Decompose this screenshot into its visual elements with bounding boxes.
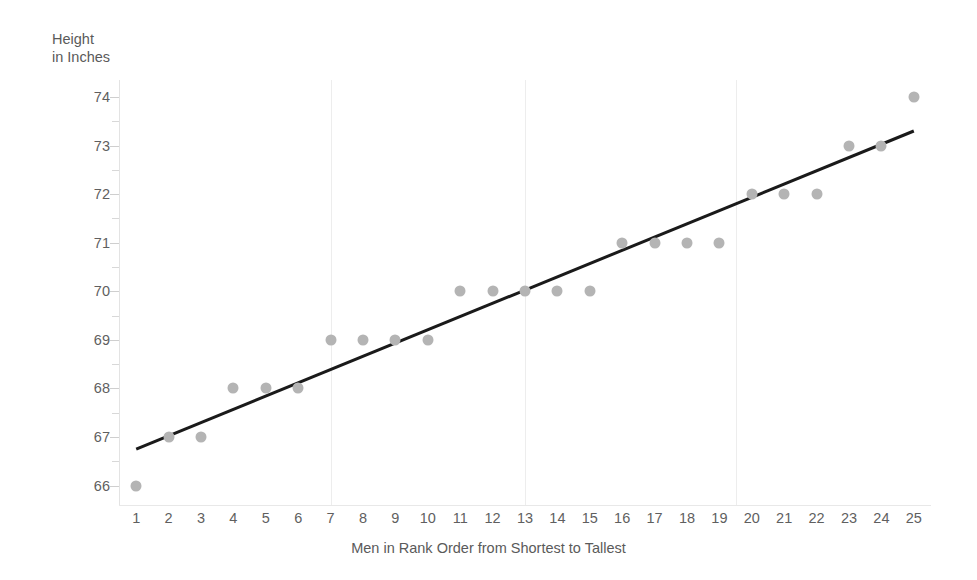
data-point [876,140,887,151]
y-axis-title: Height in Inches [52,30,110,66]
y-axis-tick [110,486,119,487]
x-axis-tick-label: 9 [391,510,399,526]
y-axis-minor-tick [112,413,119,414]
data-point [422,334,433,345]
y-axis-tick [110,243,119,244]
x-axis-tick-label: 19 [711,510,727,526]
x-axis-tick-label: 18 [679,510,695,526]
gridline-vertical [736,80,737,505]
data-point [617,237,628,248]
data-point [682,237,693,248]
data-point [811,189,822,200]
x-axis-tick-label: 12 [485,510,501,526]
y-axis-tick-label: 68 [70,380,110,396]
x-axis-tick-label: 24 [873,510,889,526]
data-point [487,286,498,297]
x-axis-tick-label: 13 [517,510,533,526]
plot-area [120,80,930,505]
x-axis-tick-labels: 1234567891011121314151617181920212223242… [120,510,930,534]
x-axis-tick-label: 11 [453,510,468,526]
y-axis-minor-tick [112,461,119,462]
data-point [844,140,855,151]
data-point [779,189,790,200]
x-axis-tick-label: 14 [549,510,565,526]
x-axis-spine [119,505,931,506]
y-axis-tick-labels: 747372717069686766 [62,80,110,505]
y-axis-tick-label: 72 [70,186,110,202]
y-axis-tick [110,194,119,195]
y-axis-tick-label: 73 [70,138,110,154]
data-point [358,334,369,345]
y-axis-minor-tick [112,267,119,268]
x-axis-tick-label: 4 [229,510,237,526]
y-axis-tick [110,340,119,341]
x-axis-tick-label: 16 [614,510,630,526]
x-axis-tick-label: 21 [776,510,792,526]
y-axis-title-line1: Height [52,31,94,47]
data-point [746,189,757,200]
x-axis-tick-label: 3 [197,510,205,526]
data-point [520,286,531,297]
data-point [455,286,466,297]
x-axis-tick-label: 7 [327,510,335,526]
data-point [163,432,174,443]
data-point [131,480,142,491]
x-axis-tick-label: 20 [744,510,760,526]
y-axis-tick-label: 71 [70,235,110,251]
x-axis-tick-label: 23 [841,510,857,526]
y-axis-tick-label: 74 [70,89,110,105]
x-axis-tick-label: 17 [647,510,663,526]
y-axis-minor-tick [112,218,119,219]
y-axis-tick-label: 66 [70,478,110,494]
data-point [325,334,336,345]
data-point [228,383,239,394]
data-point [196,432,207,443]
x-axis-tick-label: 6 [294,510,302,526]
data-point [649,237,660,248]
y-axis-tick [110,291,119,292]
y-axis-tick [110,97,119,98]
data-point [584,286,595,297]
x-axis-tick-label: 1 [132,510,140,526]
x-axis-title: Men in Rank Order from Shortest to Talle… [0,540,977,556]
y-axis-tick-label: 69 [70,332,110,348]
y-axis-minor-tick [112,364,119,365]
y-axis-tick [110,437,119,438]
y-axis-tick [110,388,119,389]
y-axis-minor-tick [112,316,119,317]
x-axis-tick-label: 5 [262,510,270,526]
y-axis-minor-tick [112,170,119,171]
y-axis-tick-label: 70 [70,283,110,299]
y-axis-minor-tick [112,121,119,122]
x-axis-tick-label: 2 [165,510,173,526]
x-axis-tick-label: 10 [420,510,436,526]
data-point [390,334,401,345]
y-axis-title-line2: in Inches [52,48,110,66]
data-point [552,286,563,297]
data-point [260,383,271,394]
x-axis-tick-label: 22 [809,510,825,526]
y-axis-tick-label: 67 [70,429,110,445]
data-point [714,237,725,248]
y-axis-tick [110,146,119,147]
x-axis-tick-label: 15 [582,510,598,526]
x-axis-tick-label: 25 [906,510,922,526]
x-axis-tick-label: 8 [359,510,367,526]
data-point [293,383,304,394]
data-point [908,92,919,103]
scatter-chart: Height in Inches 747372717069686766 1234… [0,0,977,580]
gridline-vertical [331,80,332,505]
